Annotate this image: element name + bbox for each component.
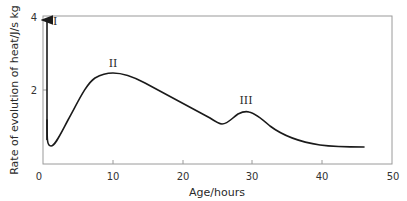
heat-evolution-chart: 0 10 20 30 40 50 2 4 Age/hours Rate of e… bbox=[0, 0, 407, 201]
y-axis-label: Rate of evolution of heat/J/s kg bbox=[8, 5, 21, 175]
peak-label-III: III bbox=[239, 94, 252, 107]
peak-label-I: I bbox=[53, 15, 57, 28]
x-tick-40: 40 bbox=[316, 171, 329, 182]
x-tick-20: 20 bbox=[177, 171, 190, 182]
x-tick-0: 0 bbox=[36, 171, 42, 182]
plot-frame bbox=[43, 16, 392, 164]
x-tick-30: 30 bbox=[246, 171, 259, 182]
axis-ticks bbox=[43, 90, 322, 164]
heat-evolution-curve bbox=[47, 73, 364, 147]
y-tick-2: 2 bbox=[31, 85, 37, 96]
x-tick-50: 50 bbox=[387, 171, 400, 182]
x-tick-10: 10 bbox=[107, 171, 120, 182]
x-axis-label: Age/hours bbox=[189, 186, 245, 199]
peak-label-II: II bbox=[109, 57, 118, 70]
y-tick-4: 4 bbox=[31, 12, 37, 23]
